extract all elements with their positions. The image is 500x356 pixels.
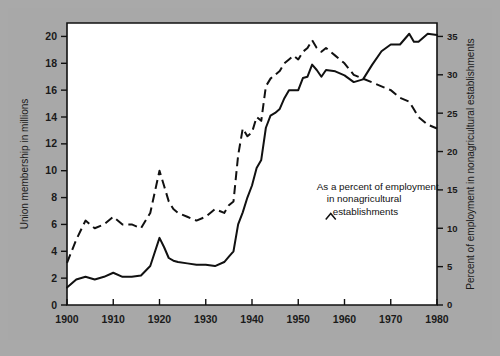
plot-background [67,23,437,305]
x-axis-tick-label: 1900 [55,313,79,325]
chart-plot-wrapper: 0246810121416182005101520253035190019101… [8,8,492,340]
y-axis-tick-label: 18 [45,57,57,69]
y2-axis-title: Percent of employment in nonagricultural… [465,38,476,289]
y2-axis-tick-label: 20 [447,146,458,157]
y-axis-tick-label: 12 [45,137,57,149]
y2-axis-tick-label: 15 [447,184,458,195]
figure-inner-panel: 0246810121416182005101520253035190019101… [8,8,492,340]
x-axis-tick-label: 1950 [287,313,311,325]
annotation-line: As a percent of employment [317,181,439,192]
union-membership-line-chart: 0246810121416182005101520253035190019101… [8,8,492,340]
y-axis-tick-label: 2 [51,272,57,284]
x-axis-tick-label: 1930 [194,313,218,325]
y-axis-tick-label: 4 [51,245,57,257]
y2-axis-tick-label: 35 [447,31,458,42]
x-axis-tick-label: 1980 [425,313,449,325]
y-axis-tick-label: 6 [51,218,57,230]
y-axis-tick-label: 20 [45,30,57,42]
y2-axis-tick-label: 30 [447,69,458,80]
y2-axis-tick-label: 5 [447,261,453,272]
y-axis-tick-label: 16 [45,84,57,96]
x-axis-tick-label: 1920 [148,313,172,325]
figure-container: 0246810121416182005101520253035190019101… [0,0,500,356]
x-axis-tick-label: 1940 [240,313,264,325]
y-axis-tick-label: 14 [45,111,57,123]
annotation-line: in nonagricultural [327,193,402,204]
y-axis-tick-label: 0 [51,299,57,311]
y-axis-tick-label: 8 [51,191,57,203]
y-axis-tick-label: 10 [45,164,57,176]
y2-axis-tick-label: 0 [447,299,452,310]
x-axis-tick-label: 1970 [379,313,403,325]
y2-axis-tick-label: 25 [447,108,458,119]
y-axis-title: Union membership in millions [19,99,30,230]
y2-axis-tick-label: 10 [447,223,458,234]
x-axis-tick-label: 1960 [333,313,357,325]
annotation-line: establishments [333,206,398,217]
x-axis-tick-label: 1910 [102,313,126,325]
